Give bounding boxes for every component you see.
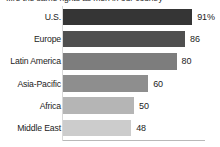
chart-title: ...re the same rights as men in our coun… — [6, 0, 214, 4]
bar-row: Middle East48 — [0, 117, 220, 139]
category-label: U.S. — [0, 6, 61, 28]
bar — [63, 75, 148, 92]
bar — [63, 9, 192, 26]
value-axis-baseline — [63, 140, 205, 141]
bar-track: 86 — [63, 28, 220, 50]
category-label: Europe — [0, 28, 61, 50]
bar — [63, 120, 131, 137]
bar-row: Asia-Pacific60 — [0, 73, 220, 95]
bar-value-label: 50 — [139, 95, 149, 117]
bar — [63, 31, 185, 48]
bar — [63, 97, 134, 114]
bar-row: U.S.91% — [0, 6, 220, 28]
plot-area: U.S.91%Europe86Latin America80Asia-Pacif… — [0, 6, 220, 141]
bar-track: 80 — [63, 50, 220, 72]
bar-track: 50 — [63, 95, 220, 117]
category-label: Africa — [0, 95, 61, 117]
bar-value-label: 48 — [136, 117, 146, 139]
bar-chart-figure: ...re the same rights as men in our coun… — [0, 0, 220, 147]
category-label: Asia-Pacific — [0, 73, 61, 95]
bar-row: Latin America80 — [0, 50, 220, 72]
bar-track: 60 — [63, 73, 220, 95]
bar-row: Europe86 — [0, 28, 220, 50]
bar-row: Africa50 — [0, 95, 220, 117]
bar-value-label: 91% — [197, 6, 215, 28]
bar-track: 48 — [63, 117, 220, 139]
bar-track: 91% — [63, 6, 220, 28]
category-label: Latin America — [0, 50, 61, 72]
bar-value-label: 80 — [182, 50, 192, 72]
bar — [63, 53, 177, 70]
category-label: Middle East — [0, 117, 61, 139]
bar-value-label: 60 — [153, 73, 163, 95]
bar-value-label: 86 — [190, 28, 200, 50]
